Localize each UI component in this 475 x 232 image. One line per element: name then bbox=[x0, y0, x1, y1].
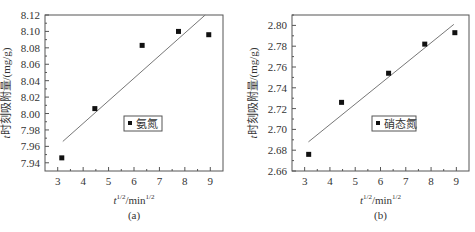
y-tick-label: 2.80 bbox=[268, 19, 288, 31]
data-point bbox=[92, 106, 97, 111]
chart-b-plot: 34567892.662.682.702.722.742.762.782.80硝… bbox=[238, 0, 475, 232]
y-tick-label: 2.74 bbox=[268, 82, 288, 94]
x-tick-label: 5 bbox=[352, 175, 358, 187]
data-point bbox=[206, 32, 211, 37]
y-tick-label: 8.12 bbox=[21, 9, 40, 21]
y-tick-label: 8.06 bbox=[21, 58, 41, 70]
x-tick-label: 6 bbox=[378, 175, 384, 187]
y-tick-label: 8.00 bbox=[21, 108, 41, 120]
y-tick-label: 2.70 bbox=[268, 123, 288, 135]
y-tick-label: 2.68 bbox=[268, 144, 288, 156]
x-axis-label: t1/2/min1/2 bbox=[360, 193, 402, 206]
x-tick-label: 9 bbox=[454, 175, 460, 187]
x-tick-label: 3 bbox=[55, 175, 61, 187]
x-tick-label: 7 bbox=[157, 175, 163, 187]
x-tick-label: 3 bbox=[302, 175, 308, 187]
x-tick-label: 8 bbox=[182, 175, 188, 187]
chart-a-plot: 34567897.947.967.988.008.028.048.068.088… bbox=[0, 0, 236, 232]
legend-label: 硝态氮 bbox=[384, 117, 417, 130]
x-tick-label: 7 bbox=[403, 175, 409, 187]
legend-marker-icon bbox=[376, 121, 380, 125]
data-point bbox=[59, 155, 64, 160]
y-tick-label: 2.72 bbox=[268, 103, 287, 115]
data-point bbox=[176, 29, 181, 34]
plot-frame bbox=[292, 15, 469, 171]
data-point bbox=[140, 43, 145, 48]
x-tick-label: 5 bbox=[106, 175, 112, 187]
panel-label: (b) bbox=[374, 209, 387, 222]
legend-marker-icon bbox=[128, 121, 132, 125]
y-tick-label: 2.66 bbox=[268, 165, 288, 177]
data-point bbox=[452, 30, 457, 35]
y-axis-label: t时刻吸附量/(mg/g) bbox=[246, 47, 260, 138]
legend-label: 氨氮 bbox=[136, 117, 158, 130]
data-point bbox=[386, 71, 391, 76]
y-tick-label: 2.76 bbox=[268, 61, 288, 73]
panel-label: (a) bbox=[128, 209, 141, 222]
x-tick-label: 4 bbox=[327, 175, 333, 187]
y-tick-label: 8.04 bbox=[21, 75, 41, 87]
plot-frame bbox=[45, 15, 223, 171]
y-tick-label: 7.94 bbox=[21, 157, 41, 169]
x-tick-label: 4 bbox=[80, 175, 86, 187]
x-axis-label: t1/2/min1/2 bbox=[113, 193, 155, 206]
data-point bbox=[306, 152, 311, 157]
y-tick-label: 8.10 bbox=[21, 25, 41, 37]
x-tick-label: 8 bbox=[428, 175, 434, 187]
y-tick-label: 8.08 bbox=[21, 42, 41, 54]
chart-a: 34567897.947.967.988.008.028.048.068.088… bbox=[0, 0, 236, 232]
y-tick-label: 7.96 bbox=[21, 140, 41, 152]
y-axis-label: t时刻吸附量/(mg/g) bbox=[0, 47, 13, 138]
x-tick-label: 9 bbox=[208, 175, 214, 187]
chart-b: 34567892.662.682.702.722.742.762.782.80硝… bbox=[238, 0, 475, 232]
x-tick-label: 6 bbox=[131, 175, 137, 187]
data-point bbox=[339, 100, 344, 105]
y-tick-label: 8.02 bbox=[21, 91, 40, 103]
data-point bbox=[422, 42, 427, 47]
y-tick-label: 2.78 bbox=[268, 40, 288, 52]
y-tick-label: 7.98 bbox=[21, 124, 41, 136]
